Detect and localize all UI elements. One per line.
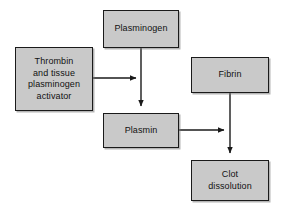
node-plasminogen[interactable]: Plasminogen — [103, 10, 179, 48]
node-plasminogen-label: Plasminogen — [112, 23, 169, 35]
node-fibrin[interactable]: Fibrin — [191, 57, 269, 93]
node-clot-label: Clot dissolution — [206, 169, 254, 192]
node-activator-label: Thrombin and tissue plasminogen activato… — [26, 56, 82, 102]
node-thrombin-and-tissue-plasminogen-activator[interactable]: Thrombin and tissue plasminogen activato… — [15, 47, 93, 111]
node-plasmin[interactable]: Plasmin — [103, 113, 179, 148]
node-fibrin-label: Fibrin — [216, 69, 243, 81]
flow-diagram: Plasminogen Thrombin and tissue plasmino… — [0, 0, 281, 208]
node-plasmin-label: Plasmin — [123, 125, 160, 137]
node-clot-dissolution[interactable]: Clot dissolution — [191, 160, 269, 201]
